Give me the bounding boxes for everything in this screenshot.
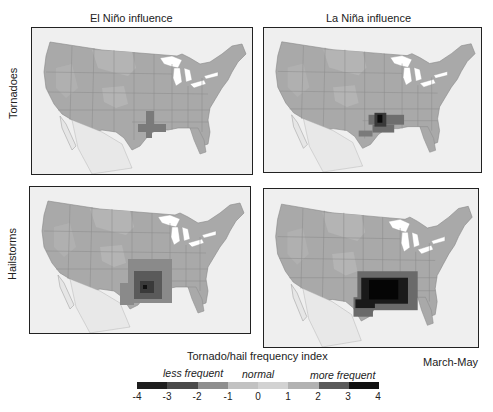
tick-label: 1 [285, 391, 291, 402]
us-map [264, 28, 481, 172]
colorbar-bin [319, 382, 349, 389]
colorbar-bin [349, 382, 379, 389]
hotspot [353, 271, 417, 316]
tick-label: -3 [163, 391, 172, 402]
map-panel-hailstorms-el-nino [29, 186, 251, 334]
colorbar-bin [228, 382, 258, 389]
row-label-tornadoes: Tornadoes [7, 69, 19, 119]
us-map [264, 189, 478, 347]
column-title-la-nina: La Niña influence [326, 12, 411, 24]
map-panel-tornadoes-la-nina [263, 27, 482, 173]
colorbar-bin [288, 382, 318, 389]
us-map [32, 28, 252, 174]
map-panel-hailstorms-la-nina [263, 188, 479, 348]
legend-title: Tornado/hail frequency index [187, 350, 328, 362]
tick-label: -4 [133, 391, 142, 402]
tick-label: 2 [315, 391, 321, 402]
colorbar-bin [167, 382, 197, 389]
tick-label: -2 [193, 391, 202, 402]
tick-label: 0 [255, 391, 261, 402]
tick-label: 3 [345, 391, 351, 402]
label-more-frequent: more frequent [310, 369, 375, 381]
tick-label: -1 [224, 391, 233, 402]
label-normal: normal [242, 368, 274, 380]
map-panel-tornadoes-el-nino [31, 27, 253, 175]
colorbar-bin [137, 382, 167, 389]
colorbar-bin [198, 382, 228, 389]
label-less-frequent: less frequent [163, 367, 223, 379]
season-label: March-May [423, 356, 478, 368]
colorbar [137, 382, 379, 389]
row-label-hailstorms: Hailstorms [6, 228, 18, 280]
colorbar-bin [258, 382, 288, 389]
us-map [30, 187, 250, 333]
column-title-el-nino: El Niño influence [90, 12, 173, 24]
tick-label: 4 [375, 391, 381, 402]
